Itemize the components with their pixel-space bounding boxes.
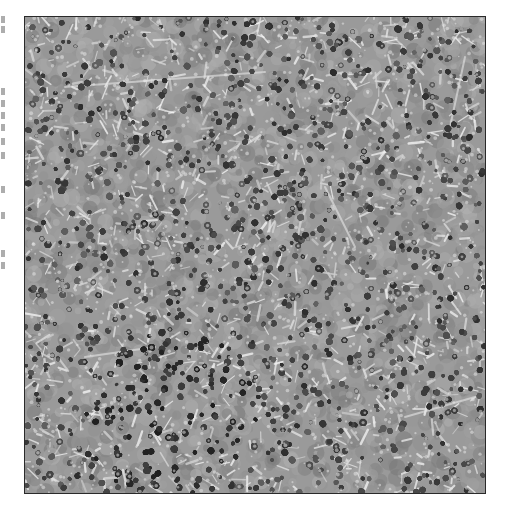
text-fragment — [1, 88, 5, 95]
text-fragment — [1, 186, 5, 193]
text-fragment — [1, 250, 5, 257]
text-fragment — [1, 152, 5, 159]
clipped-text-margin — [0, 0, 10, 522]
text-fragment — [1, 212, 5, 219]
micrograph-image — [25, 17, 485, 493]
micrograph-figure — [24, 16, 486, 494]
text-fragment — [1, 16, 5, 23]
text-fragment — [1, 112, 5, 119]
text-fragment — [1, 124, 5, 131]
text-fragment — [1, 100, 5, 107]
text-fragment — [1, 138, 5, 145]
text-fragment — [1, 262, 5, 269]
text-fragment — [1, 26, 5, 33]
